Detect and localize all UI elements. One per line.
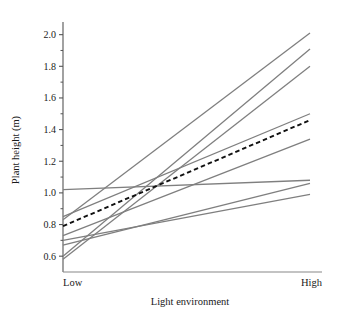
- reaction-norm-chart: 0.60.81.01.21.41.61.82.0 Low High Light …: [0, 0, 342, 315]
- y-tick-label: 1.8: [44, 61, 57, 72]
- y-tick-label: 0.6: [44, 251, 57, 262]
- y-tick-label: 0.8: [44, 219, 57, 230]
- y-axis-title: Plant height (m): [10, 115, 22, 184]
- y-tick-label: 1.6: [44, 92, 57, 103]
- x-axis-title: Light environment: [151, 296, 230, 307]
- x-tick-label-high: High: [301, 277, 323, 288]
- x-tick-label-low: Low: [63, 277, 83, 288]
- y-tick-label: 1.2: [44, 156, 57, 167]
- y-tick-label: 1.4: [44, 124, 57, 135]
- y-tick-label: 2.0: [44, 29, 57, 40]
- chart-figure: 0.60.81.01.21.41.61.82.0 Low High Light …: [0, 0, 342, 315]
- y-tick-label: 1.0: [44, 187, 57, 198]
